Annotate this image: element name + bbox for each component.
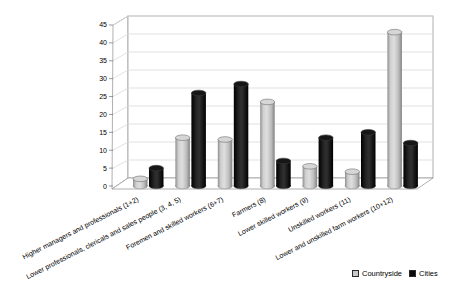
legend: Countryside Cities (352, 269, 438, 278)
bar-cities-2 (234, 81, 249, 189)
y-axis-tick-label: 45 (99, 21, 107, 28)
bar-cities-5 (361, 130, 376, 189)
bar-chart-plot: 051015202530354045Higher managers and pr… (0, 0, 454, 303)
y-axis-tick-label: 40 (99, 39, 107, 46)
y-axis-tick-label: 25 (99, 93, 107, 100)
legend-label-cities: Cities (419, 269, 438, 278)
y-axis-tick-label: 0 (103, 183, 107, 190)
y-axis-tick-label: 30 (99, 75, 107, 82)
y-axis-tick-label: 5 (103, 165, 107, 172)
y-axis-tick-label: 20 (99, 111, 107, 118)
bar-countryside-4 (303, 164, 318, 189)
y-axis-tick-label: 35 (99, 57, 107, 64)
legend-item-countryside: Countryside (352, 269, 402, 278)
bar-countryside-0 (133, 176, 148, 189)
bar-countryside-2 (218, 137, 233, 189)
back-wall (128, 16, 433, 178)
y-axis-tick-label: 15 (99, 129, 107, 136)
bar-cities-0 (149, 165, 164, 188)
bar-cities-6 (403, 140, 418, 189)
legend-label-countryside: Countryside (362, 269, 402, 278)
y-axis-tick-label: 10 (99, 147, 107, 154)
x-axis-category-label: Lower skilled workers (9) (237, 196, 310, 238)
bar-countryside-3 (260, 99, 275, 189)
bar-countryside-6 (387, 29, 402, 188)
countryside-swatch-icon (352, 270, 359, 277)
bar-countryside-1 (175, 135, 190, 189)
bar-countryside-5 (345, 169, 360, 189)
bar-cities-3 (276, 158, 291, 189)
bar-cities-4 (319, 135, 334, 189)
x-axis-category-label: Farmers (8) (231, 196, 267, 220)
cities-swatch-icon (409, 270, 416, 277)
legend-item-cities: Cities (409, 269, 438, 278)
x-axis-category-label: Lower professionals, clericals and sales… (25, 196, 182, 281)
bar-cities-1 (191, 90, 206, 189)
chart-figure: 051015202530354045Higher managers and pr… (0, 0, 454, 303)
